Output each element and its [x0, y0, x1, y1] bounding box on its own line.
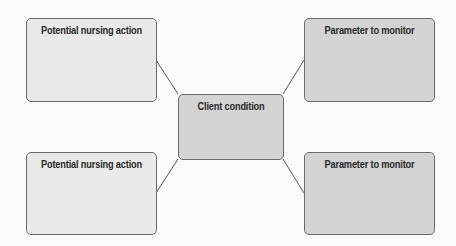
connector-top-left [156, 60, 178, 94]
node-parameter-to-monitor-bottom: Parameter to monitor [304, 152, 435, 235]
node-label: Potential nursing action [35, 24, 149, 36]
node-client-condition: Client condition [178, 94, 284, 160]
node-label: Potential nursing action [35, 158, 149, 170]
node-parameter-to-monitor-top: Parameter to monitor [304, 18, 435, 102]
node-potential-nursing-action-top: Potential nursing action [26, 18, 157, 102]
connector-bottom-left [156, 159, 178, 193]
node-label: Parameter to monitor [313, 24, 427, 36]
connector-bottom-right [283, 159, 304, 193]
node-potential-nursing-action-bottom: Potential nursing action [26, 152, 157, 235]
node-label: Parameter to monitor [313, 158, 427, 170]
connector-top-right [283, 60, 304, 94]
center-label: Client condition [185, 100, 277, 112]
